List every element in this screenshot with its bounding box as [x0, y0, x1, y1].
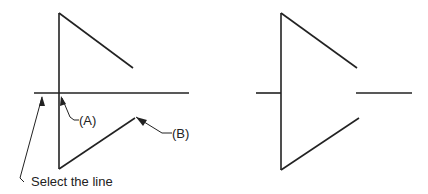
select-leader: [20, 97, 42, 182]
a-leader: [62, 98, 79, 120]
instruction-label: Select the line: [31, 175, 113, 188]
right-figure: [256, 13, 412, 170]
right-upper-diagonal[interactable]: [281, 13, 357, 68]
leaders: [20, 97, 172, 182]
right-lower-diagonal[interactable]: [281, 118, 359, 170]
left-lower-diagonal[interactable]: [59, 118, 135, 169]
left-figure: [34, 13, 189, 169]
label-a: (A): [79, 114, 96, 127]
select-arrow-icon: [39, 96, 45, 106]
left-upper-diagonal[interactable]: [59, 13, 133, 68]
label-b: (B): [172, 127, 189, 140]
diagram-canvas: [0, 0, 428, 194]
b-arrow-icon: [136, 117, 147, 126]
